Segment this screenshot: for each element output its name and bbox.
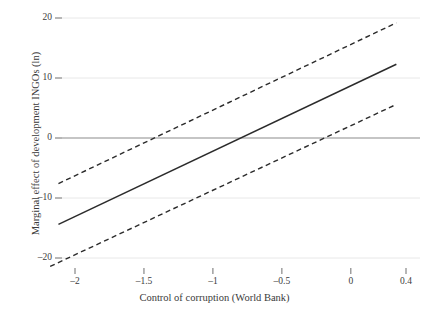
x-tick-label-0: –2 (70, 277, 80, 287)
y-tick-label-1: 10 (0, 73, 52, 83)
x-tick-marks-group (75, 268, 406, 274)
y-tick-label-2: 0 (0, 133, 52, 143)
series-lines-group (50, 23, 396, 267)
series-line-2 (50, 104, 396, 266)
y-axis-title: Marginal effect of development INGOs (ln… (30, 24, 41, 264)
chart-figure: 20100–10–20 –2–1.5–1–0.500.4 Control of … (0, 0, 429, 316)
x-tick-label-3: –0.5 (274, 277, 291, 287)
x-axis-title: Control of corruption (World Bank) (0, 292, 429, 303)
y-tick-label-3: –10 (0, 193, 52, 203)
x-tick-label-1: –1.5 (136, 277, 153, 287)
y-tick-marks-group (55, 18, 62, 258)
x-tick-label-4: 0 (348, 277, 353, 287)
series-line-1 (58, 23, 396, 184)
x-tick-label-5: 0.4 (400, 277, 412, 287)
y-tick-label-4: –20 (0, 253, 52, 263)
x-tick-label-2: –1 (208, 277, 218, 287)
plot-area (0, 0, 429, 316)
y-tick-label-0: 20 (0, 13, 52, 23)
series-line-0 (58, 64, 396, 224)
